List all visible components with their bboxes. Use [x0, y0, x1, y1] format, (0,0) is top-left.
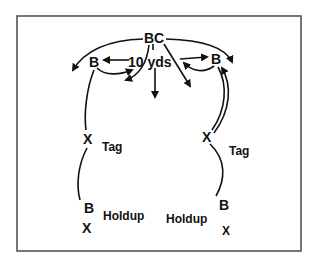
- label-distance: 10 yds: [128, 54, 172, 70]
- label-x-holdup-right: X: [222, 224, 230, 238]
- diagram-frame: [17, 16, 301, 251]
- label-b-left-top: B: [89, 54, 99, 70]
- play-diagram: BC B 10 yds B X Tag X Tag B X Holdup Hol…: [0, 0, 315, 264]
- label-bc: BC: [144, 30, 164, 46]
- label-holdup-right: Holdup: [166, 212, 207, 226]
- label-holdup-left: Holdup: [103, 209, 144, 223]
- label-x-tag-left: X: [83, 131, 93, 147]
- label-tag-right: Tag: [229, 144, 249, 158]
- label-b-right-top: B: [211, 51, 221, 67]
- label-x-tag-right: X: [202, 129, 212, 145]
- label-b-holdup-left: B: [84, 200, 94, 216]
- label-tag-left: Tag: [102, 140, 122, 154]
- label-x-holdup-left: X: [82, 220, 92, 236]
- label-b-holdup-right: B: [219, 197, 229, 213]
